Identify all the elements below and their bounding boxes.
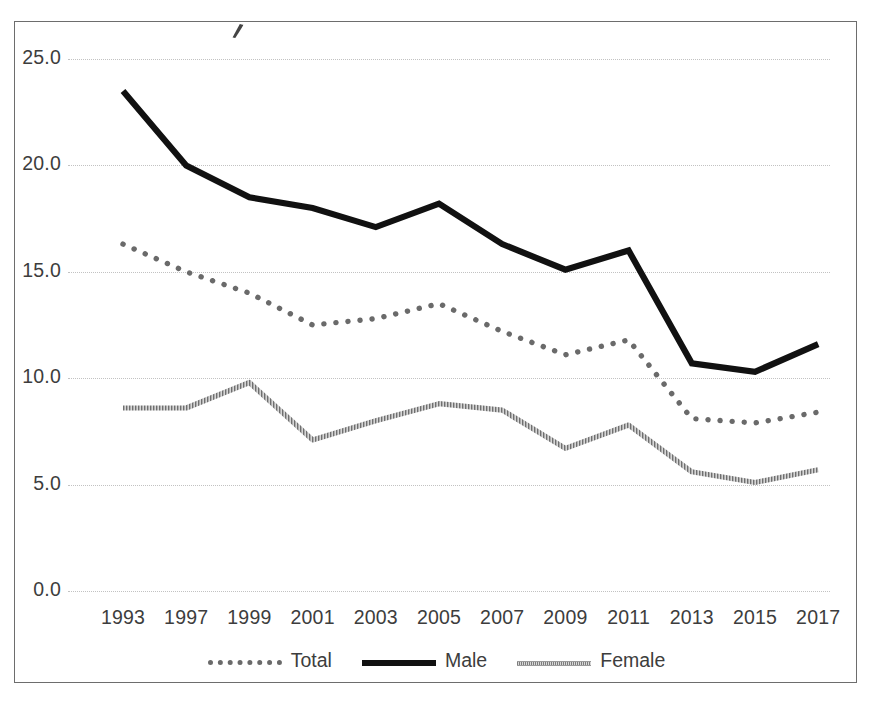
legend-swatch-female-icon: [517, 661, 591, 666]
legend-swatch-male-icon: [362, 660, 436, 666]
series-plot: [15, 22, 858, 684]
legend-entry-total: Total: [208, 649, 332, 672]
series-line-total: [123, 244, 818, 423]
series-line-male: [123, 91, 818, 372]
legend-entry-male: Male: [362, 649, 487, 672]
legend-entry-female: Female: [517, 649, 665, 672]
plot-area: 0.05.010.015.020.025.0 19931997199920012…: [15, 22, 858, 684]
legend-swatch-total-icon: [208, 660, 282, 665]
chart-figure: 0.05.010.015.020.025.0 19931997199920012…: [14, 21, 857, 683]
legend-label-total: Total: [291, 649, 332, 672]
legend-label-male: Male: [445, 649, 487, 672]
legend-label-female: Female: [600, 649, 665, 672]
chart-legend: Total Male Female: [15, 649, 858, 672]
series-line-female: [123, 383, 818, 483]
